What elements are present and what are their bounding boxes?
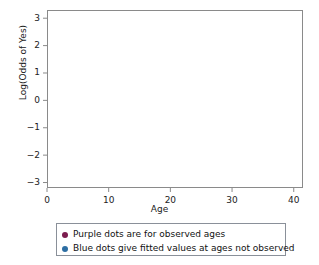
y-axis-title: Log(Odds of Yes) xyxy=(19,3,28,123)
x-tick-label: 30 xyxy=(219,196,245,205)
y-tick-label: −2 xyxy=(18,151,40,160)
y-tick-label: −1 xyxy=(18,123,40,132)
legend-marker-blue-icon xyxy=(62,246,68,252)
legend-item: Purple dots are for observed ages xyxy=(62,228,280,241)
legend-marker-purple-icon xyxy=(62,232,68,238)
x-axis-title: Age xyxy=(0,205,319,214)
y-tick-label: −3 xyxy=(18,178,40,187)
x-tick-label: 10 xyxy=(96,196,122,205)
x-tick-label: 40 xyxy=(281,196,307,205)
x-tick-label: 0 xyxy=(34,196,60,205)
legend-item: Blue dots give fitted values at ages not… xyxy=(62,242,280,255)
chart-figure: 3210−1−2−3 010203040 Log(Odds of Yes) Ag… xyxy=(0,0,319,265)
legend-item-label: Blue dots give fitted values at ages not… xyxy=(73,244,295,253)
legend: Purple dots are for observed ages Blue d… xyxy=(56,223,286,256)
plot-area xyxy=(47,10,303,188)
legend-item-label: Purple dots are for observed ages xyxy=(73,230,225,239)
